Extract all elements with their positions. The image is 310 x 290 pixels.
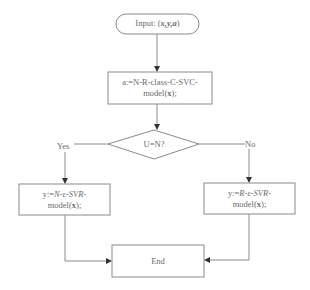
yes-box-label: y:=N-ε-SVR- model(x); [19,189,110,211]
start-prefix: Input: ( [135,18,160,28]
yes-label: Yes [57,141,69,151]
classify-line2: model(x); [108,88,212,99]
start-suffix: ) [177,18,180,28]
classify-label: a:=N-R-class-C-SVC- model(x); [108,77,212,99]
classify-line1: a:=N-R-class-C-SVC- [108,77,212,88]
yes-line2: model(x); [19,200,110,211]
end-label: End [112,256,204,267]
yes-line1-c: - [83,189,86,199]
start-label: Input: (x,y,a) [116,18,199,29]
yes-line2-a: model( [48,200,72,210]
no-line1-c: - [268,188,271,198]
no-line2-c: ); [261,199,266,209]
no-line1: y:=R-ε-SVR- [204,188,295,199]
no-line2-a: model( [233,199,257,209]
no-box-label: y:=R-ε-SVR- model(x); [204,188,295,210]
start-vars: x,y,a [161,18,177,28]
decision-label: U=N? [108,139,200,150]
connector-no-end [205,214,249,260]
no-label: No [245,139,255,149]
connector-yes-end [65,215,111,261]
no-line2: model(x); [204,199,295,210]
classify-line2-c: ); [172,88,177,98]
yes-line1-model: N-ε-SVR [54,189,83,199]
yes-line1-a: y:= [43,189,54,199]
no-line1-a: y:= [228,188,239,198]
classify-line2-a: model( [143,88,167,98]
yes-line1: y:=N-ε-SVR- [19,189,110,200]
no-line1-model: R-ε-SVR [239,188,268,198]
yes-line2-c: ); [76,200,81,210]
